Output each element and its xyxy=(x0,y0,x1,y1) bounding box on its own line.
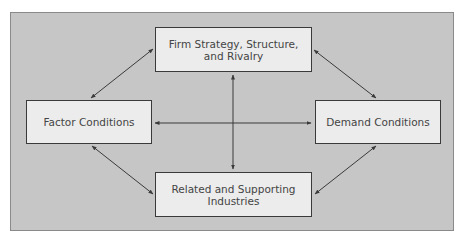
arrow-factor-to-related xyxy=(92,146,153,194)
node-firm-strategy-label: Firm Strategy, Structure, and Rivalry xyxy=(169,38,299,62)
node-factor-conditions-label: Factor Conditions xyxy=(43,116,134,128)
node-firm-strategy: Firm Strategy, Structure, and Rivalry xyxy=(155,27,312,72)
node-factor-conditions: Factor Conditions xyxy=(26,100,152,144)
node-demand-conditions: Demand Conditions xyxy=(315,100,441,144)
arrow-strategy-to-demand xyxy=(314,50,376,98)
arrow-factor-to-strategy xyxy=(91,49,153,98)
arrow-demand-to-related xyxy=(315,146,376,194)
node-related-supporting: Related and Supporting Industries xyxy=(155,172,312,217)
node-related-supporting-label: Related and Supporting Industries xyxy=(171,183,295,207)
node-demand-conditions-label: Demand Conditions xyxy=(326,116,429,128)
